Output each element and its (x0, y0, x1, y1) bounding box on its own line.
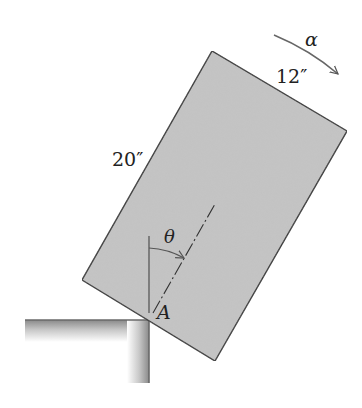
alpha-label: α (305, 28, 318, 50)
ledge-side-shading (127, 320, 149, 383)
width-dimension-label: 12″ (276, 65, 307, 87)
diagram-canvas: α 12″ 20″ θ A (0, 0, 362, 408)
support-ledge (25, 320, 149, 383)
height-dimension-label: 20″ (112, 148, 143, 170)
pivot-point-label: A (155, 301, 171, 323)
rectangular-block (82, 51, 347, 361)
theta-label: θ (164, 226, 175, 247)
